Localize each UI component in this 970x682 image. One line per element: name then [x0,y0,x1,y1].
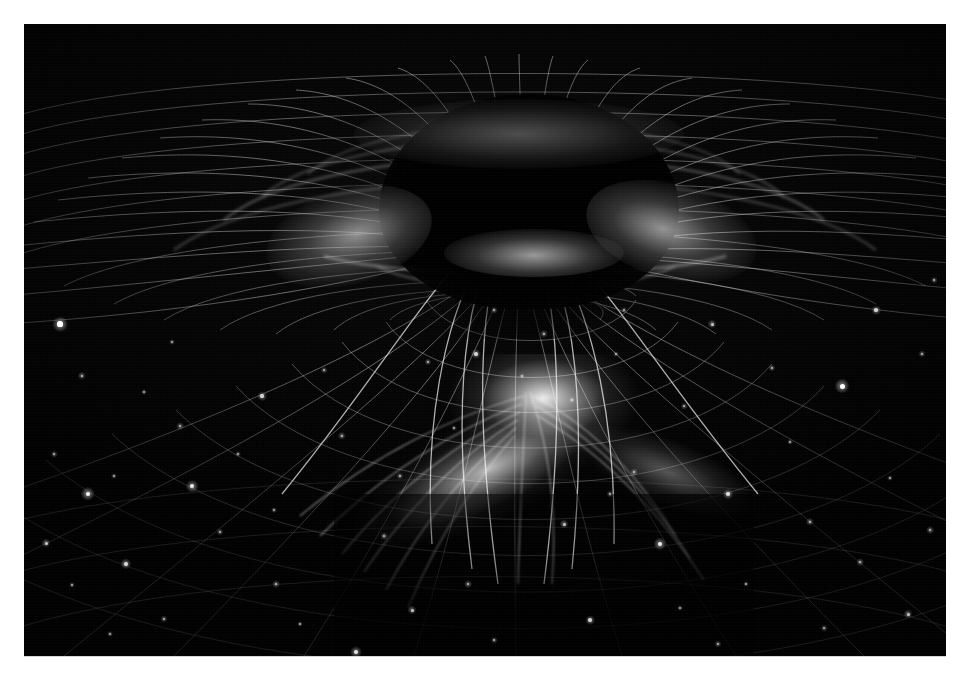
star-point [929,529,932,532]
star-point [163,618,165,620]
star-point [57,321,62,326]
star-point [53,453,55,455]
star-point [179,425,182,428]
image-canvas [0,0,970,682]
star-point [81,375,84,378]
star-point [219,531,221,533]
star-point [921,353,923,355]
caustic-throat-glow [444,229,624,277]
star-point [771,367,773,369]
star-point [273,509,275,511]
star-point [299,623,301,625]
star-point [623,309,625,311]
star-point [260,394,263,397]
star-point [323,369,325,371]
dust-lane [334,494,754,656]
star-point [71,584,73,586]
star-point [171,341,173,343]
star-point [143,391,145,393]
star-point [45,542,48,545]
caustic-top-glow [354,99,684,169]
star-point [341,435,344,438]
star-point [109,633,111,635]
star-point [859,561,862,564]
star-point [907,613,910,616]
star-point [275,583,278,586]
star-point [889,477,891,479]
star-point [711,323,714,326]
star-point [86,492,91,497]
star-point [933,279,935,281]
star-point [840,384,845,389]
star-point [874,308,877,311]
star-point [237,453,239,455]
star-point [190,484,194,488]
astronomical-plate [24,24,946,656]
star-point [789,441,791,443]
star-point [124,562,128,566]
star-point [823,627,825,629]
star-point [113,475,115,477]
